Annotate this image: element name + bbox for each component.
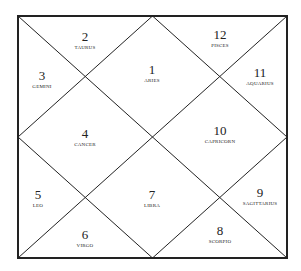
house-sign: LEO xyxy=(33,203,43,208)
house-number: 1 xyxy=(144,63,159,76)
house-number: 8 xyxy=(209,224,232,237)
house-sign: VIRGO xyxy=(77,243,94,248)
house-sign: CANCER xyxy=(74,142,95,147)
house-number: 5 xyxy=(33,188,43,201)
house-number: 6 xyxy=(77,228,94,241)
house-sign: GEMINI xyxy=(32,84,51,89)
house-sign: LIBRA xyxy=(144,203,160,208)
house-number: 12 xyxy=(211,28,229,41)
house-number: 9 xyxy=(243,186,278,199)
house-8: 8 SCORPIO xyxy=(209,224,232,244)
house-sign: ARIES xyxy=(144,78,159,83)
house-number: 3 xyxy=(32,69,51,82)
house-11: 11 AQUARIUS xyxy=(246,66,273,86)
house-sign: SCORPIO xyxy=(209,239,232,244)
house-7: 7 LIBRA xyxy=(144,188,160,208)
house-sign: TAURUS xyxy=(75,45,96,50)
house-number: 10 xyxy=(205,124,235,137)
house-number: 2 xyxy=(75,30,96,43)
house-number: 4 xyxy=(74,127,95,140)
house-4: 4 CANCER xyxy=(74,127,95,147)
house-3: 3 GEMINI xyxy=(32,69,51,89)
house-6: 6 VIRGO xyxy=(77,228,94,248)
house-sign: SAGITTARIUS xyxy=(243,201,278,206)
house-sign: AQUARIUS xyxy=(246,81,273,86)
house-5: 5 LEO xyxy=(33,188,43,208)
house-number: 11 xyxy=(246,66,273,79)
house-sign: CAPRICORN xyxy=(205,139,235,144)
house-2: 2 TAURUS xyxy=(75,30,96,50)
house-9: 9 SAGITTARIUS xyxy=(243,186,278,206)
house-sign: PISCES xyxy=(211,43,229,48)
house-10: 10 CAPRICORN xyxy=(205,124,235,144)
house-1: 1 ARIES xyxy=(144,63,159,83)
north-indian-chart-frame xyxy=(0,0,301,271)
house-number: 7 xyxy=(144,188,160,201)
house-12: 12 PISCES xyxy=(211,28,229,48)
